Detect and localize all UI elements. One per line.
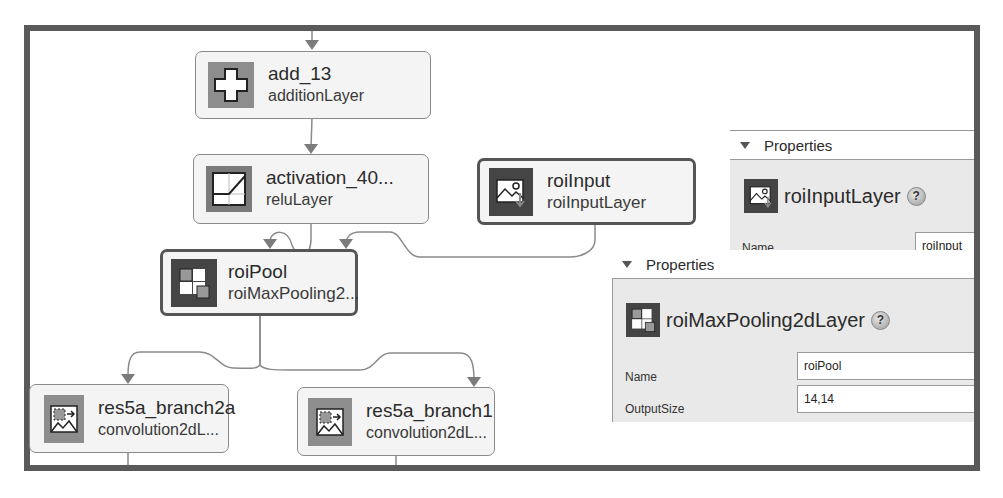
node-type: convolution2dL... xyxy=(98,419,235,441)
node-res5a-branch2a[interactable]: res5a_branch2a convolution2dL... xyxy=(29,384,229,453)
output-size-field[interactable]: 14,14 xyxy=(797,385,975,413)
roi-max-pooling-icon xyxy=(626,303,660,337)
layer-type-label: roiInputLayer xyxy=(784,185,901,208)
properties-header[interactable]: Properties xyxy=(612,250,975,279)
properties-header[interactable]: Properties xyxy=(730,130,975,160)
properties-panel-roi-pool: Properties roiMaxPooling2dLayer ? Name r… xyxy=(612,250,975,422)
node-title: roiPool xyxy=(228,261,359,283)
node-roi-input[interactable]: roiInput roiInputLayer xyxy=(477,158,696,225)
frame-right-edge xyxy=(974,25,980,471)
collapse-triangle-icon[interactable] xyxy=(740,142,750,149)
roi-input-icon xyxy=(744,179,778,213)
name-field[interactable]: roiPool xyxy=(797,352,975,380)
roi-max-pooling-icon xyxy=(171,259,217,307)
node-activation-40[interactable]: activation_40... reluLayer xyxy=(193,154,429,224)
help-icon[interactable]: ? xyxy=(907,187,926,206)
output-size-label: OutputSize xyxy=(625,402,684,416)
node-type: convolution2dL... xyxy=(366,422,493,444)
node-roi-pool[interactable]: roiPool roiMaxPooling2... xyxy=(160,249,358,316)
node-res5a-branch1[interactable]: res5a_branch1 convolution2dL... xyxy=(297,387,495,456)
node-title: res5a_branch1 xyxy=(366,400,493,422)
node-title: res5a_branch2a xyxy=(98,397,235,419)
help-icon[interactable]: ? xyxy=(871,311,890,330)
convolution-icon xyxy=(44,395,84,443)
relu-icon xyxy=(206,166,252,212)
node-title: add_13 xyxy=(268,63,364,85)
convolution-icon xyxy=(308,398,352,446)
addition-icon xyxy=(208,62,254,108)
properties-title: Properties xyxy=(764,137,832,154)
roi-input-icon xyxy=(489,168,533,216)
properties-title: Properties xyxy=(646,256,714,273)
node-title: roiInput xyxy=(547,170,646,192)
layer-type-label: roiMaxPooling2dLayer xyxy=(666,309,865,332)
collapse-triangle-icon[interactable] xyxy=(622,261,632,268)
node-type: roiMaxPooling2... xyxy=(228,283,359,305)
node-type: reluLayer xyxy=(266,189,394,211)
node-type: roiInputLayer xyxy=(547,192,646,214)
node-title: activation_40... xyxy=(266,167,394,189)
node-type: additionLayer xyxy=(268,85,364,107)
node-add-13[interactable]: add_13 additionLayer xyxy=(195,51,431,119)
name-label: Name xyxy=(625,370,657,384)
